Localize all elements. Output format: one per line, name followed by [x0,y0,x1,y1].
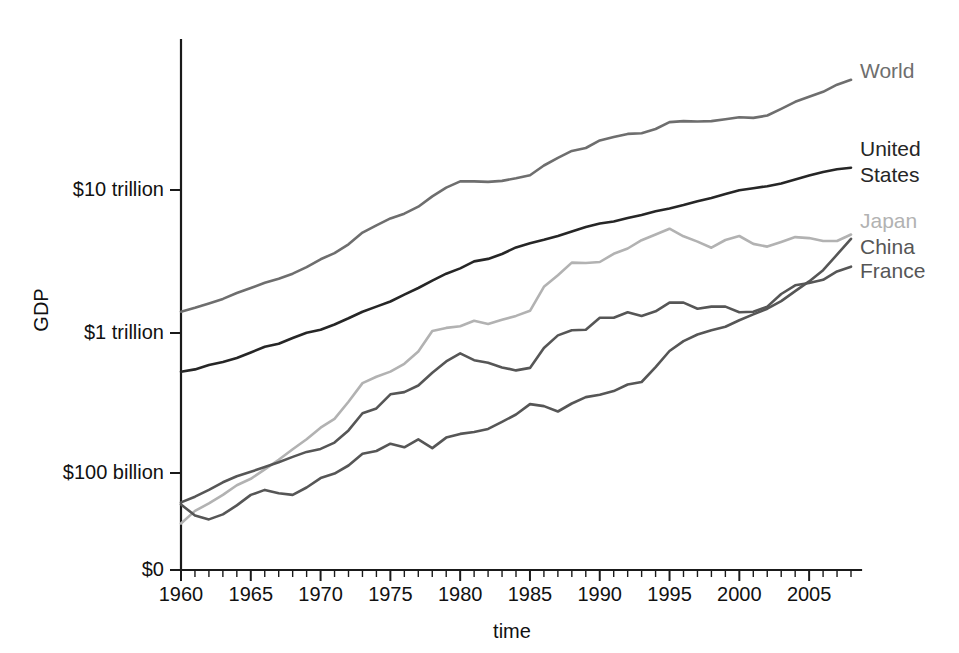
x-tick-label: 1965 [229,583,274,605]
series-label-france: France [860,259,925,282]
y-tick-label: $1 trillion [84,321,164,343]
x-tick-label: 1985 [508,583,553,605]
series-label-japan: Japan [860,209,917,232]
y-tick-label: $10 trillion [73,178,164,200]
series-label-world: World [860,59,914,82]
y-axis-title: GDP [30,288,52,331]
x-tick-label: 1970 [298,583,343,605]
x-tick-label: 1975 [368,583,413,605]
x-axis: 1960196519701975198019851990199520002005 [159,570,861,605]
x-tick-label: 1980 [438,583,483,605]
x-tick-label: 2005 [787,583,832,605]
series-label-united-states-line1: United [860,137,921,160]
y-tick-label: $0 [142,558,164,580]
x-axis-title: time [493,620,531,642]
series-line-france [181,267,851,503]
gdp-line-chart: $10 trillion$1 trillion$100 billion$0 19… [0,0,959,653]
x-tick-label: 2000 [717,583,762,605]
series-lines [181,80,851,524]
series-line-japan [181,229,851,524]
series-label-united-states-line2: States [860,163,920,186]
chart-canvas: $10 trillion$1 trillion$100 billion$0 19… [0,0,959,653]
series-labels: WorldUnitedStatesJapanChinaFrance [860,59,925,282]
x-tick-label: 1995 [647,583,692,605]
series-line-united-states [181,168,851,372]
y-tick-label: $100 billion [63,461,164,483]
y-axis: $10 trillion$1 trillion$100 billion$0 [63,40,181,580]
series-line-china [181,239,851,520]
x-tick-label: 1990 [578,583,623,605]
series-line-world [181,80,851,312]
x-tick-label: 1960 [159,583,204,605]
series-label-china: China [860,235,915,258]
